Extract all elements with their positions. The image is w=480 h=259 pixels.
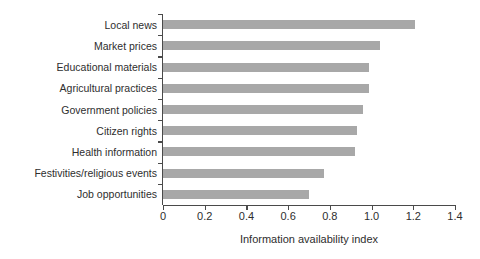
x-axis-tick-label: 0.8 [322, 210, 337, 223]
y-axis-tick [158, 35, 163, 36]
bar [163, 105, 363, 114]
x-axis-tick-label: 0.4 [239, 210, 254, 223]
category-axis-labels: Local newsMarket pricesEducational mater… [0, 0, 157, 205]
x-axis-tick [205, 205, 206, 210]
bar-chart: Local newsMarket pricesEducational mater… [0, 0, 480, 259]
y-axis-tick [158, 99, 163, 100]
y-axis-tick [158, 56, 163, 57]
category-label: Educational materials [57, 61, 157, 73]
category-label: Citizen rights [96, 125, 157, 137]
x-axis-tick-label: 1.0 [364, 210, 379, 223]
x-axis-tick-label: 0.6 [280, 210, 295, 223]
bar [163, 41, 380, 50]
y-axis-tick [158, 14, 163, 15]
category-label: Government policies [61, 104, 157, 116]
x-axis-tick [372, 205, 373, 210]
category-label: Festivities/religious events [34, 167, 157, 179]
x-axis-tick [455, 205, 456, 210]
category-label: Market prices [94, 40, 157, 52]
bar [163, 84, 369, 93]
bar [163, 147, 355, 156]
bar [163, 63, 369, 72]
category-label: Agricultural practices [60, 82, 157, 94]
bar [163, 169, 324, 178]
x-axis-tick [288, 205, 289, 210]
y-axis-tick [158, 184, 163, 185]
x-axis-tick [413, 205, 414, 210]
y-axis-tick [158, 141, 163, 142]
x-axis-tick-label: 0 [160, 210, 166, 223]
bar [163, 20, 415, 29]
y-axis-tick [158, 78, 163, 79]
x-axis-tick-label: 1.2 [406, 210, 421, 223]
x-axis-tick [163, 205, 164, 210]
x-axis-tick [330, 205, 331, 210]
bar [163, 190, 309, 199]
x-axis-tick-label: 1.4 [447, 210, 462, 223]
x-axis-tick [246, 205, 247, 210]
y-axis-tick [158, 120, 163, 121]
category-label: Job opportunities [77, 188, 157, 200]
category-label: Local news [104, 19, 157, 31]
x-axis-title: Information availability index [163, 232, 455, 246]
plot-area [163, 14, 455, 205]
category-label: Health information [72, 146, 157, 158]
bar [163, 126, 357, 135]
y-axis-tick [158, 163, 163, 164]
x-axis-tick-label: 0.2 [197, 210, 212, 223]
